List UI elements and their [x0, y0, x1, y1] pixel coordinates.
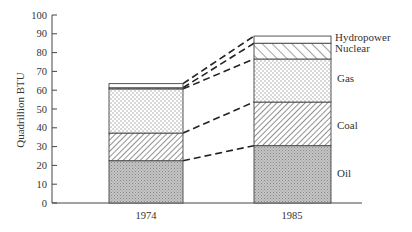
- x-label-1974: 1974: [136, 210, 158, 221]
- y-tick-label: 30: [37, 141, 48, 152]
- bar-1974: [109, 84, 183, 203]
- connector-nuclear: [183, 43, 254, 88]
- segment-coal: [254, 102, 331, 146]
- bar-1985: [254, 36, 331, 203]
- label-coal: Coal: [337, 119, 358, 131]
- label-gas: Gas: [337, 72, 354, 84]
- x-label-1985: 1985: [282, 210, 303, 221]
- label-nuclear: Nuclear: [335, 42, 370, 54]
- y-tick-label: 0: [42, 198, 47, 209]
- connector-hydropower: [183, 36, 254, 84]
- y-axis-title: Quadrillion BTU: [14, 72, 26, 148]
- segment-hydropower: [254, 36, 331, 43]
- y-tick-label: 40: [37, 122, 48, 133]
- y-tick-label: 100: [31, 10, 47, 21]
- y-tick-label: 50: [37, 104, 48, 115]
- y-tick-label: 80: [37, 47, 48, 58]
- connector-oil: [183, 146, 254, 161]
- label-oil: Oil: [337, 167, 351, 179]
- connector-gas: [183, 59, 254, 89]
- segment-gas: [254, 59, 331, 102]
- dashed-connectors: [183, 36, 254, 161]
- connector-coal: [183, 102, 254, 133]
- segment-nuclear: [254, 43, 331, 59]
- segment-hydropower: [109, 84, 183, 88]
- bars: [109, 36, 331, 203]
- y-tick-label: 60: [37, 85, 48, 96]
- stacked-bar-chart: 0102030405060708090100 Quadrillion BTU 1…: [0, 0, 412, 232]
- y-tick-label: 20: [37, 160, 48, 171]
- segment-oil: [109, 161, 183, 203]
- y-tick-label: 10: [37, 179, 48, 190]
- segment-gas: [109, 89, 183, 133]
- y-tick-label: 90: [37, 28, 48, 39]
- segment-oil: [254, 146, 331, 203]
- segment-coal: [109, 133, 183, 161]
- y-tick-label: 70: [37, 66, 48, 77]
- y-axis: 0102030405060708090100: [31, 10, 57, 209]
